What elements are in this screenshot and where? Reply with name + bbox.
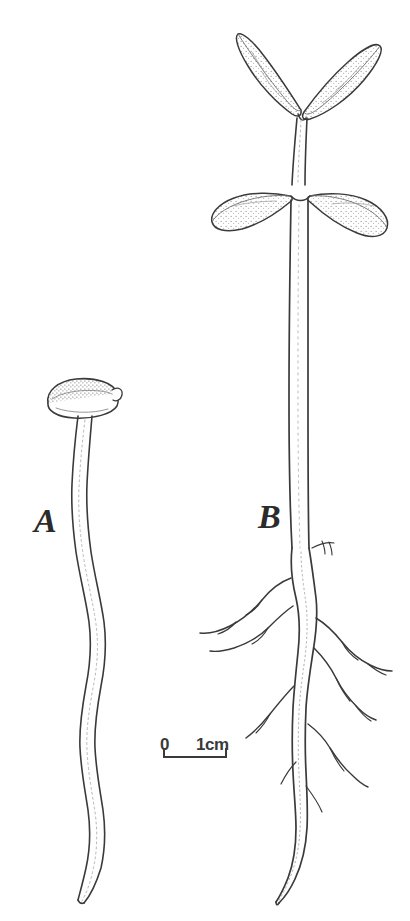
specimen-b-cotyledon-left — [212, 193, 293, 231]
specimen-b-drawing — [200, 34, 392, 905]
specimen-b-epicotyl-right — [305, 118, 307, 185]
specimen-b-hypocotyl-left — [289, 200, 292, 548]
specimen-a-axis-right — [84, 416, 105, 903]
illustration-canvas — [0, 0, 410, 921]
specimen-b-lateral-root-r2 — [314, 648, 376, 720]
specimen-b-taproot-left — [276, 548, 299, 902]
scale-bar-zero-label: 0 — [160, 736, 169, 753]
specimen-b-hypocotyl-texture — [298, 205, 300, 548]
specimen-b-lateral-root-r3 — [308, 724, 368, 787]
specimen-b-hypocotyl-right — [308, 200, 309, 548]
specimen-b-cotyledon-right — [308, 194, 388, 237]
specimen-b-true-leaf-right — [303, 45, 382, 120]
specimen-a-drawing — [48, 379, 122, 904]
specimen-b-root-tip — [276, 902, 279, 905]
scale-bar-length-label: 1cm — [196, 736, 229, 753]
specimen-b-lateral-root-r4 — [306, 786, 322, 812]
specimen-a-label: A — [34, 504, 57, 538]
specimen-a-seed-cap — [48, 379, 122, 419]
specimen-a-root-tip — [78, 900, 84, 903]
specimen-b-cotyledon-node — [291, 196, 310, 201]
specimen-b-epicotyl-texture — [298, 120, 301, 184]
specimen-a-axis-texture — [79, 420, 98, 901]
specimen-b-lateral-root-l1 — [200, 578, 291, 633]
specimen-b-true-leaf-left — [236, 34, 301, 116]
specimen-b-label: B — [258, 500, 281, 534]
botanical-figure: A B 0 1cm — [0, 0, 410, 921]
specimen-b-lateral-root-l3 — [246, 686, 294, 738]
specimen-b-epicotyl-left — [292, 118, 297, 185]
